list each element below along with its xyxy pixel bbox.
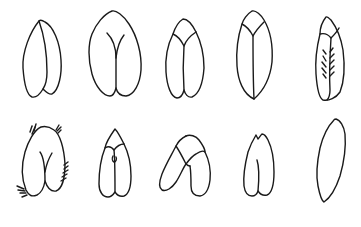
seed-figure-r2c1 [17,124,68,197]
seed-figure-r1c5 [316,17,344,100]
seed-figure-r1c4 [237,11,272,99]
seed-figure-r1c1 [23,20,61,97]
seed-figure-r1c2 [89,11,141,96]
seed-illustration-plate [0,0,361,227]
seed-figure-r2c5 [317,119,345,202]
seed-figure-r1c3 [166,19,204,98]
seed-figure-r2c3 [160,135,211,196]
seed-figure-r2c2 [99,129,131,197]
seed-figure-r2c4 [244,134,274,196]
